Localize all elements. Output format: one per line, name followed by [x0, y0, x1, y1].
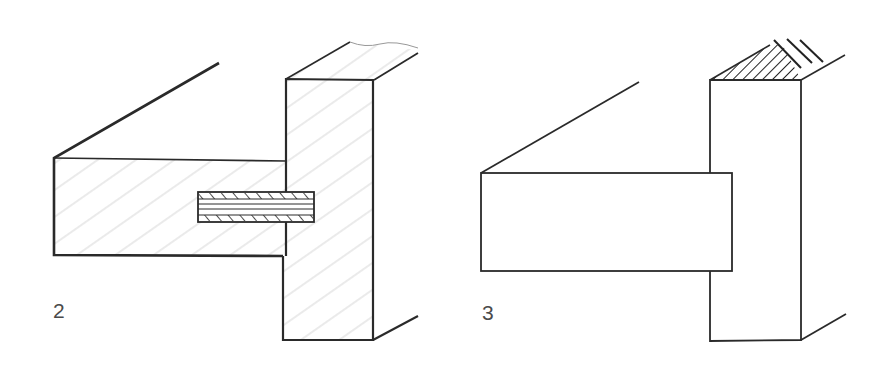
spline	[198, 192, 314, 222]
post-bottom-right-edge	[373, 316, 418, 340]
post-bottom-right-edge	[801, 314, 846, 340]
figure-3-number: 3	[482, 302, 494, 323]
figure-2	[54, 42, 418, 340]
rail-outline	[481, 173, 732, 271]
post-top-grain	[286, 42, 418, 80]
diagram-canvas	[0, 0, 882, 371]
rail-back-edge	[481, 82, 639, 173]
figure-3	[481, 39, 846, 341]
figure-2-number: 2	[53, 300, 65, 321]
